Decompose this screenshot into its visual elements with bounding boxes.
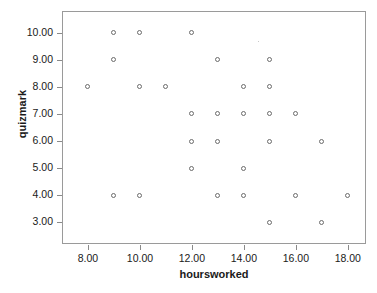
x-tick-mark [140,245,141,250]
x-tick-mark [244,245,245,250]
y-tick-mark [57,141,62,142]
x-tick-mark [348,245,349,250]
x-tick-mark [88,245,89,250]
y-tick-label: 3.00 [9,215,53,227]
x-tick-label: 14.00 [221,252,267,264]
x-tick-label: 8.00 [65,252,111,264]
y-tick-mark [57,222,62,223]
data-point [215,139,220,144]
y-tick-mark [57,87,62,88]
y-tick-label: 8.00 [9,80,53,92]
x-tick-mark [296,245,297,250]
y-tick-mark [57,195,62,196]
y-tick-label: 4.00 [9,188,53,200]
y-tick-label: 5.00 [9,161,53,173]
y-tick-label: 9.00 [9,53,53,65]
x-tick-label: 18.00 [325,252,371,264]
x-tick-label: 10.00 [117,252,163,264]
y-tick-mark [57,60,62,61]
y-tick-mark [57,114,62,115]
scatter-plot-figure: quizmark 3.004.005.006.007.008.009.0010.… [0,0,377,293]
y-tick-label: 7.00 [9,107,53,119]
x-axis-title: hoursworked [62,268,366,280]
data-point [267,139,272,144]
y-tick-mark [57,168,62,169]
y-tick-mark [57,33,62,34]
plot-area [62,11,366,244]
y-tick-label: 10.00 [9,26,53,38]
x-tick-label: 12.00 [169,252,215,264]
stray-speck [258,41,259,42]
data-point [319,139,324,144]
x-tick-mark [192,245,193,250]
y-tick-label: 6.00 [9,134,53,146]
x-tick-label: 16.00 [273,252,319,264]
